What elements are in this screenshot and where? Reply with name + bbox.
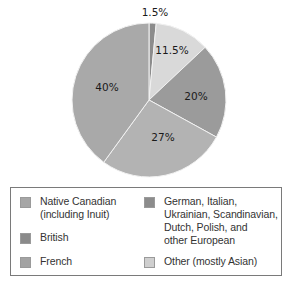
legend-item-british: British: [20, 231, 68, 244]
slice-value-label: 40%: [95, 81, 118, 93]
slice-value-label: 11.5%: [155, 44, 188, 56]
legend-label: Other (mostly Asian): [164, 255, 257, 268]
legend-label: German, Italian, Ukrainian, Scandinavian…: [164, 195, 278, 247]
legend-swatch: [20, 197, 31, 208]
legend-item-other-asian: Other (mostly Asian): [144, 255, 257, 268]
slice-value-label: 1.5%: [142, 6, 169, 18]
legend-item-other-european: German, Italian, Ukrainian, Scandinavian…: [144, 195, 278, 247]
legend-swatch: [144, 197, 155, 208]
slice-value-label: 20%: [184, 90, 207, 102]
legend: Native Canadian (including Inuit) Britis…: [10, 187, 282, 276]
slice-value-label: 27%: [151, 131, 174, 143]
legend-label: Native Canadian (including Inuit): [40, 195, 116, 221]
legend-swatch: [144, 257, 155, 268]
legend-label: French: [40, 255, 72, 268]
legend-item-french: French: [20, 255, 72, 268]
legend-item-native-canadian: Native Canadian (including Inuit): [20, 195, 116, 221]
legend-label: British: [40, 231, 68, 244]
pie-chart: 1.5%11.5%20%27%40%: [0, 0, 294, 185]
legend-swatch: [20, 257, 31, 268]
legend-swatch: [20, 233, 31, 244]
